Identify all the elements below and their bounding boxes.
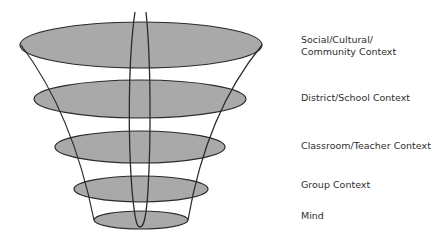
layer-label-line: Group Context xyxy=(301,179,370,191)
layer-label-line: Community Context xyxy=(301,46,396,58)
layer-ellipse-classroom xyxy=(55,131,225,163)
layer-label-district: District/School Context xyxy=(301,92,410,104)
layer-label-group: Group Context xyxy=(301,179,370,191)
layer-label-classroom: Classroom/Teacher Context xyxy=(301,140,431,152)
layer-label-mind: Mind xyxy=(301,210,324,222)
layer-ellipse-social xyxy=(20,22,262,68)
layer-label-social: Social/Cultural/Community Context xyxy=(301,34,396,58)
layer-label-line: Social/Cultural/ xyxy=(301,34,396,46)
layer-label-line: Mind xyxy=(301,210,324,222)
layer-label-line: Classroom/Teacher Context xyxy=(301,140,431,152)
context-layer-ellipses xyxy=(20,22,262,229)
layer-ellipse-district xyxy=(34,80,246,118)
layer-ellipse-group xyxy=(74,176,208,202)
layer-label-line: District/School Context xyxy=(301,92,410,104)
